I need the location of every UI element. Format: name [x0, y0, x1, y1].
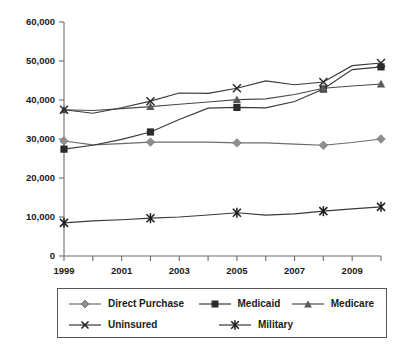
y-tick-label: 40,000	[26, 94, 55, 105]
data-point-marker	[147, 128, 154, 135]
series-military	[60, 202, 385, 228]
legend-label-medicare: Medicare	[331, 298, 374, 309]
series-line	[64, 207, 381, 223]
data-point-marker	[377, 80, 385, 88]
x-tick-label: 2005	[226, 265, 248, 276]
x-tick-label: 2001	[111, 265, 133, 276]
legend-marker-diamond-icon	[68, 297, 102, 311]
y-tick-label: 60,000	[26, 16, 55, 27]
data-point-marker	[233, 139, 241, 147]
y-tick-label: 0	[50, 250, 55, 261]
y-tick-label: 20,000	[26, 172, 55, 183]
legend-item-direct-purchase[interactable]: Direct Purchase	[60, 293, 198, 314]
chart-legend: Direct Purchase Medicaid Medicare	[57, 288, 387, 338]
legend-marker-triangle-icon	[291, 297, 325, 311]
plot-area: 010,00020,00030,00040,00050,00060,000 19…	[0, 0, 393, 282]
line-chart: 010,00020,00030,00040,00050,00060,000 19…	[0, 0, 393, 348]
legend-item-uninsured[interactable]: Uninsured	[60, 314, 218, 335]
legend-label-direct-purchase: Direct Purchase	[108, 298, 184, 309]
x-tick-label: 2003	[169, 265, 190, 276]
data-point-marker	[377, 63, 384, 70]
legend-label-military: Military	[258, 319, 293, 330]
legend-marker-x-icon	[68, 318, 102, 332]
legend-label-uninsured: Uninsured	[108, 319, 157, 330]
legend-item-military[interactable]: Military	[218, 314, 326, 335]
x-axis: 199920012003200520072009	[53, 256, 381, 276]
legend-marker-asterisk-icon	[218, 318, 252, 332]
x-tick-label: 2009	[342, 265, 363, 276]
series-uninsured	[60, 59, 385, 114]
x-tick-label: 2007	[284, 265, 305, 276]
data-point-marker	[146, 138, 154, 146]
data-point-marker	[377, 135, 385, 143]
data-point-marker	[319, 141, 327, 149]
series-line	[64, 67, 381, 149]
series-line	[64, 84, 381, 111]
data-point-marker	[233, 104, 240, 111]
legend-row-2: Uninsured Military	[60, 314, 384, 335]
x-tick-label: 1999	[53, 265, 74, 276]
y-tick-label: 50,000	[26, 55, 55, 66]
y-tick-label: 30,000	[26, 133, 55, 144]
series-layer	[60, 59, 385, 228]
legend-row-1: Direct Purchase Medicaid Medicare	[60, 293, 384, 314]
series-medicaid	[60, 63, 384, 152]
series-line	[64, 63, 381, 113]
y-tick-label: 10,000	[26, 211, 55, 222]
legend-item-medicare[interactable]: Medicare	[291, 293, 384, 314]
legend-item-medicaid[interactable]: Medicaid	[198, 293, 291, 314]
legend-marker-square-icon	[198, 297, 232, 311]
series-line	[64, 139, 381, 145]
chart-svg: 010,00020,00030,00040,00050,00060,000 19…	[0, 0, 393, 282]
data-point-marker	[60, 137, 68, 145]
legend-label-medicaid: Medicaid	[238, 298, 281, 309]
data-point-marker	[60, 146, 67, 153]
y-axis: 010,00020,00030,00040,00050,00060,000	[26, 16, 64, 261]
